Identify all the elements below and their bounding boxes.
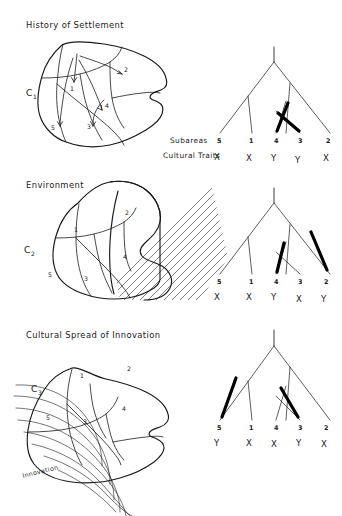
subareas-label: Subareas	[170, 136, 208, 145]
culture-letter: C	[26, 88, 33, 98]
figure-page: History of Settlement C 1	[0, 0, 342, 516]
map-area-1: 1	[70, 85, 74, 92]
map-boundaries-1	[42, 44, 160, 145]
map-area-numbers-2: 1 2 3 4 5	[48, 209, 129, 282]
tree-row-labels-1: Subareas Cultural Traits	[163, 136, 220, 160]
map-area-2: 2	[127, 365, 131, 372]
tree-traits-1: X X Y Y X	[214, 152, 329, 165]
map-area-5: 5	[48, 271, 52, 278]
tree-3	[220, 330, 330, 420]
map-outline-1	[38, 42, 167, 147]
panel-title: Cultural Spread of Innovation	[26, 330, 160, 340]
innovation-label: Innovation	[22, 463, 59, 479]
tip-number-2: 2	[324, 278, 329, 286]
trait-tip-4: Y	[270, 292, 277, 302]
panel-cultural-spread-of-innovation: Cultural Spread of Innovation C 3 Innova…	[14, 330, 330, 516]
culture-label-c2: C 2	[24, 245, 35, 257]
tree-highlight-tip-5	[222, 378, 236, 417]
tip-number-1: 1	[249, 424, 254, 432]
tip-number-3: 3	[298, 424, 303, 432]
panel-history-of-settlement: History of Settlement C 1	[26, 20, 331, 165]
trait-tip-4: X	[271, 439, 277, 449]
tree-highlight-tip-4	[277, 243, 284, 272]
trait-tip-1: X	[246, 438, 252, 448]
tip-number-4: 4	[274, 137, 279, 145]
culture-subscript: 3	[38, 389, 42, 396]
tree-highlight-tip-3	[281, 388, 298, 417]
map-area-2: 2	[125, 209, 129, 216]
trait-tip-3: Y	[294, 155, 301, 165]
trait-tip-1: X	[246, 292, 252, 302]
tree-traits-3: Y X X Y X	[213, 438, 327, 449]
map-area-5: 5	[51, 124, 55, 131]
trait-tip-5: X	[214, 152, 220, 162]
culture-label-c1: C 1	[26, 88, 37, 100]
tree-traits-2: X X Y X Y	[214, 292, 327, 304]
tip-number-4: 4	[274, 424, 279, 432]
culture-letter: C	[24, 245, 31, 255]
trait-tip-2: X	[321, 439, 327, 449]
map-area-1: 1	[80, 372, 84, 379]
trait-tip-5: Y	[213, 438, 220, 448]
map-area-4: 4	[105, 102, 109, 109]
map-area-3: 3	[87, 123, 91, 130]
culture-subscript: 1	[33, 93, 37, 100]
panel-environment: Environment C 2	[24, 174, 338, 312]
tip-number-1: 1	[249, 278, 254, 286]
map-area-4: 4	[123, 253, 127, 260]
panel-title: Environment	[26, 180, 84, 190]
trait-tip-2: X	[323, 153, 329, 163]
trait-tip-3: Y	[295, 438, 302, 448]
tree-highlight-tip-2	[311, 232, 327, 270]
figure-canvas: History of Settlement C 1	[0, 0, 342, 516]
tree-tip-numbers-2: 5 1 4 3 2	[217, 278, 329, 286]
cultural-traits-label: Cultural Traits	[163, 151, 220, 160]
tip-number-5: 5	[217, 424, 222, 432]
tip-number-5: 5	[217, 137, 222, 145]
tip-number-5: 5	[217, 278, 222, 286]
trait-tip-3: X	[296, 294, 302, 304]
trait-tip-1: X	[246, 153, 252, 163]
map-area-4: 4	[122, 405, 126, 412]
trait-tip-4: Y	[270, 153, 277, 163]
tip-number-3: 3	[298, 137, 303, 145]
tree-2	[220, 188, 330, 274]
culture-subscript: 2	[31, 250, 35, 257]
map-area-1: 1	[74, 226, 78, 233]
trait-tip-5: X	[214, 292, 220, 302]
trait-tip-2: Y	[320, 294, 327, 304]
tip-number-1: 1	[249, 137, 254, 145]
tree-1	[220, 47, 330, 133]
tree-tip-numbers-3: 5 1 4 3 2	[217, 424, 329, 432]
map-area-5: 5	[46, 414, 50, 421]
tip-number-2: 2	[324, 424, 329, 432]
tip-number-2: 2	[326, 137, 331, 145]
tree-tip-numbers-1: 5 1 4 3 2	[217, 137, 331, 145]
tip-number-3: 3	[298, 278, 303, 286]
panel-title: History of Settlement	[26, 20, 124, 30]
map-area-3: 3	[84, 275, 88, 282]
tip-number-4: 4	[274, 278, 279, 286]
map-area-2: 2	[124, 66, 128, 73]
map-area-3: 3	[83, 418, 87, 425]
